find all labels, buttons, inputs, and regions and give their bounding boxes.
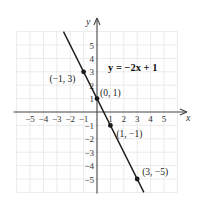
x-axis-label: x xyxy=(185,112,191,123)
y-tick-label: −4 xyxy=(84,161,94,171)
x-tick-label: 4 xyxy=(148,114,153,124)
x-tick-label: −4 xyxy=(39,114,49,124)
y-tick-label: −5 xyxy=(84,175,94,185)
point-label: (0, 1) xyxy=(100,88,121,99)
x-tick-label: −2 xyxy=(65,114,75,124)
data-point xyxy=(81,69,86,74)
x-tick-label: 5 xyxy=(162,114,167,124)
equation-label: y = −2x + 1 xyxy=(108,62,157,73)
x-tick-label: 3 xyxy=(135,114,140,124)
y-tick-label: −3 xyxy=(84,148,94,158)
data-point xyxy=(135,177,140,182)
y-tick-label: 4 xyxy=(90,54,95,64)
point-label: (1, −1) xyxy=(116,129,142,140)
y-tick-label: −2 xyxy=(84,134,94,144)
y-tick-label: 3 xyxy=(90,67,95,77)
coordinate-plane: −5−4−3−2−11234554321−1−2−3−4−5 (−1, 3)(0… xyxy=(0,0,203,207)
x-tick-label: 2 xyxy=(122,114,127,124)
x-tick-label: −3 xyxy=(52,114,62,124)
y-tick-label: −1 xyxy=(84,121,94,131)
data-point xyxy=(95,96,100,101)
y-axis-label: y xyxy=(85,16,91,27)
x-tick-label: −5 xyxy=(25,114,35,124)
point-label: (−1, 3) xyxy=(50,74,76,85)
data-point xyxy=(108,123,113,128)
point-label: (3, −5) xyxy=(142,167,168,178)
y-tick-label: 1 xyxy=(90,94,95,104)
y-tick-label: 5 xyxy=(90,41,95,51)
